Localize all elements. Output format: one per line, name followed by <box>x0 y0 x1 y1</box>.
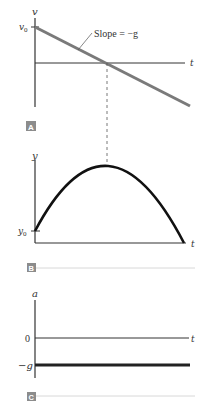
panel-c-acceleration-graph: a 0 t −g C <box>18 288 195 402</box>
t-axis-label-c: t <box>191 334 195 344</box>
slope-leader-line <box>78 33 92 50</box>
panel-a-velocity-graph: v v0 t Slope = −g A <box>19 6 194 132</box>
neg-g-label: −g <box>18 360 33 371</box>
badge-b-label: B <box>29 264 35 273</box>
v0-label: v0 <box>19 22 28 34</box>
position-parabola <box>35 166 184 243</box>
t-axis-label-b: t <box>191 239 195 249</box>
y-axis-label: y <box>31 150 38 161</box>
badge-c-label: C <box>29 393 35 402</box>
kinematics-diagram: v v0 t Slope = −g A y y0 t B a 0 t −g C <box>0 0 201 410</box>
v-axis-label: v <box>32 6 38 17</box>
panel-b-position-graph: y y0 t B <box>17 150 195 273</box>
y0-label: y0 <box>17 226 27 238</box>
t-axis-label-a: t <box>190 58 194 68</box>
slope-annotation: Slope = −g <box>94 28 138 39</box>
a-axis-label: a <box>32 288 38 299</box>
zero-label: 0 <box>25 333 30 344</box>
badge-a-label: A <box>28 123 34 132</box>
